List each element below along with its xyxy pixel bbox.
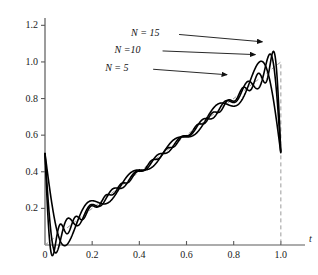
- figure: 0.20.40.60.81.01.200.20.40.60.81.0tN = 1…: [0, 0, 318, 275]
- x-tick-label: 0.8: [219, 249, 249, 260]
- chart-canvas: [0, 0, 318, 275]
- y-tick-label: 0.2: [8, 202, 38, 213]
- annotation-arrow: [163, 51, 256, 55]
- y-tick-label: 1.0: [8, 56, 38, 67]
- annotation-arrow: [179, 34, 262, 41]
- x-tick-label: 0.2: [77, 249, 107, 260]
- y-tick-label: 0.4: [8, 166, 38, 177]
- x-tick-label: 0.6: [172, 249, 202, 260]
- x-axis-title: t: [309, 233, 312, 244]
- x-tick-label: 0.4: [124, 249, 154, 260]
- y-tick-label: 1.2: [8, 19, 38, 30]
- x-tick-label: 0: [30, 249, 60, 260]
- series-curve-15: [45, 51, 281, 255]
- annotation-arrow: [153, 69, 227, 74]
- x-tick-label: 1.0: [266, 249, 296, 260]
- y-tick-label: 0.6: [8, 129, 38, 140]
- y-tick-label: 0.8: [8, 93, 38, 104]
- series-annotation: N = 15: [131, 27, 159, 38]
- series-annotation: N = 5: [105, 62, 128, 73]
- series-annotation: N =10: [115, 44, 141, 55]
